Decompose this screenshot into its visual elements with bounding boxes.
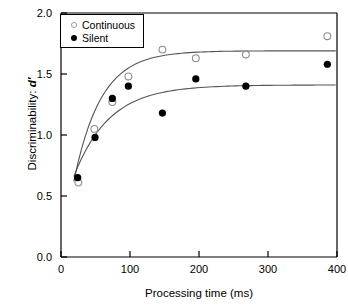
open-circle-icon (66, 22, 82, 28)
legend-item-continuous: Continuous (66, 18, 135, 31)
ytick-label-0-0: 0.0 (22, 251, 52, 263)
xtick-label-300: 300 (248, 263, 288, 275)
xtick-label-0: 0 (41, 263, 81, 275)
chart-figure: 2.0 1.5 1.0 0.5 0.0 0 100 200 300 400 Di… (0, 0, 348, 307)
legend-label-silent: Silent (82, 32, 108, 44)
xtick-label-100: 100 (110, 263, 150, 275)
xtick-label-200: 200 (179, 263, 219, 275)
plot-canvas (0, 0, 348, 307)
y-axis-ticks (61, 13, 67, 257)
legend-label-continuous: Continuous (82, 19, 135, 31)
y-axis-label: Discriminability: d′ (26, 44, 38, 204)
y-axis-label-text: Discriminability: (26, 87, 38, 170)
d-prime-symbol: d′ (26, 78, 38, 88)
fit-curve-continuous (74, 51, 336, 182)
x-axis-label: Processing time (ms) (60, 287, 338, 299)
filled-circle-icon (66, 35, 82, 41)
legend-item-silent: Silent (66, 31, 135, 44)
series-silent-markers (74, 61, 331, 182)
plot-frame (61, 13, 337, 257)
x-axis-ticks (61, 251, 337, 257)
xtick-label-400: 400 (317, 263, 348, 275)
series-continuous-markers (75, 33, 331, 186)
ytick-label-2-0: 2.0 (22, 7, 52, 19)
chart-legend: Continuous Silent (60, 14, 144, 48)
